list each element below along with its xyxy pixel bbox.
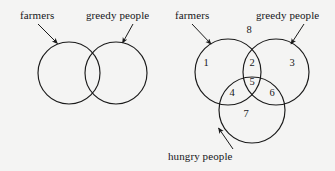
venn-diagram-figure: farmers greedy people farmers greedy peo…	[0, 0, 335, 171]
left-greedy-people-arrow	[123, 24, 134, 43]
right-greedy-people-label: greedy people	[256, 9, 319, 21]
region-label-4: 4	[229, 87, 234, 98]
left-greedy-people-label: greedy people	[86, 9, 149, 21]
region-label-1: 1	[203, 57, 208, 68]
left-greedy-people-circle	[85, 42, 147, 104]
right-hungry-people-arrow	[219, 128, 234, 149]
right-greedy-people-arrow	[291, 24, 304, 44]
left-diagram-group	[38, 42, 147, 104]
left-diagram-arrows	[38, 24, 133, 44]
region-label-7: 7	[243, 108, 248, 119]
region-label-2: 2	[249, 57, 254, 68]
region-label-6: 6	[269, 87, 274, 98]
right-diagram-group	[195, 39, 309, 143]
left-farmers-arrow	[38, 24, 58, 44]
right-farmers-label: farmers	[175, 9, 209, 21]
left-farmers-label: farmers	[20, 9, 54, 21]
region-label-8: 8	[246, 24, 251, 35]
region-label-3: 3	[289, 57, 294, 68]
left-farmers-circle	[38, 42, 100, 104]
right-greedy-people-circle	[243, 39, 309, 105]
right-diagram-arrows	[192, 24, 304, 149]
region-label-5: 5	[249, 76, 254, 87]
venn-diagram-canvas	[0, 0, 335, 171]
right-farmers-circle	[195, 39, 261, 105]
right-hungry-people-label: hungry people	[168, 150, 233, 162]
right-farmers-arrow	[192, 24, 211, 44]
